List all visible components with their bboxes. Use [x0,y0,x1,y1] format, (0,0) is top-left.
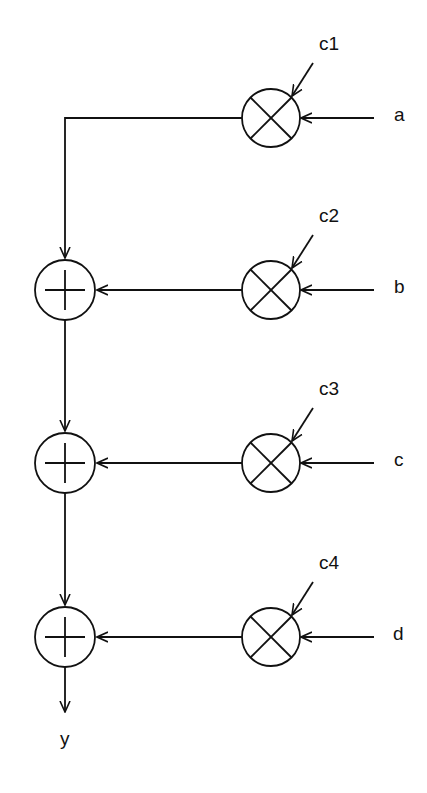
input-label-c: c [394,449,404,471]
diagram-canvas [0,0,427,793]
coef-arrow-c4 [292,582,313,615]
multiplier-1 [242,89,300,147]
adder-2 [35,433,95,493]
input-label-d: d [393,623,404,645]
multiplier-2 [242,261,300,319]
input-label-b: b [394,276,405,298]
adder-1 [35,260,95,320]
input-label-a: a [394,104,405,126]
coef-label-c4: c4 [319,552,339,574]
output-label-y: y [60,728,70,750]
coef-label-c1: c1 [319,33,339,55]
adder-3 [35,607,95,667]
coef-arrow-c3 [292,408,313,441]
coef-arrow-c1 [292,63,313,96]
multiplier-3 [242,434,300,492]
product-path-1 [65,118,242,258]
multiplier-4 [242,608,300,666]
coef-label-c2: c2 [319,205,339,227]
coef-label-c3: c3 [319,378,339,400]
coef-arrow-c2 [292,235,313,268]
